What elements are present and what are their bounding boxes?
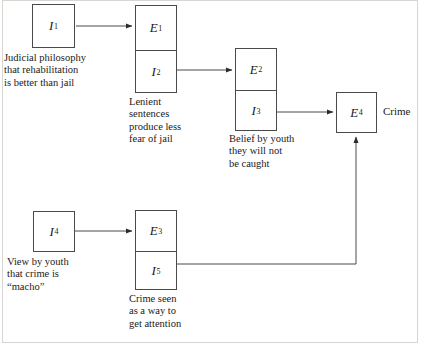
node-i1-cell: I1 <box>33 5 74 47</box>
node-i5-cell: I5 <box>136 251 176 290</box>
caption-i4: View by youth that crime is “macho” <box>7 256 69 293</box>
node-i2-subscript: 2 <box>157 68 161 77</box>
node-i4-label: I <box>49 224 54 240</box>
node-e3-i5[interactable]: E3 I5 <box>135 210 177 290</box>
node-e2-subscript: 2 <box>258 65 262 74</box>
node-e1-label: E <box>150 20 158 36</box>
node-e1-i2[interactable]: E1 I2 <box>135 5 177 93</box>
node-i5-subscript: 5 <box>157 267 161 276</box>
caption-i2: Lenient sentences produce less fear of j… <box>129 96 181 146</box>
caption-i3: Belief by youth they will not be caught <box>229 133 294 170</box>
node-e1-cell: E1 <box>136 6 176 50</box>
node-e3-label: E <box>150 223 158 239</box>
node-e4-cell: E4 <box>337 93 376 132</box>
node-e3-cell: E3 <box>136 211 176 251</box>
node-i2-cell: I2 <box>136 50 176 93</box>
caption-i5: Crime seen as a way to get attention <box>129 293 181 330</box>
node-e4-subscript: 4 <box>359 108 363 117</box>
label-crime: Crime <box>383 105 411 117</box>
node-i4[interactable]: I4 <box>33 211 75 252</box>
caption-i1: Judicial philosophy that rehabilitation … <box>4 52 86 89</box>
node-e4[interactable]: E4 <box>336 92 377 133</box>
node-i3-subscript: 3 <box>257 107 261 116</box>
node-i1-label: I <box>49 18 54 34</box>
node-e4-label: E <box>350 105 358 121</box>
node-e3-subscript: 3 <box>158 227 162 236</box>
node-e2-i3[interactable]: E2 I3 <box>235 48 277 131</box>
node-e2-label: E <box>250 62 258 78</box>
node-i1[interactable]: I1 <box>32 4 75 48</box>
node-i3-label: I <box>251 103 256 119</box>
node-e1-subscript: 1 <box>158 24 162 33</box>
node-i1-subscript: 1 <box>54 22 58 31</box>
causal-chain-diagram: I1 Judicial philosophy that rehabilitati… <box>0 0 422 352</box>
node-i5-label: I <box>151 263 156 279</box>
node-e2-cell: E2 <box>236 49 276 90</box>
node-i4-subscript: 4 <box>55 227 59 236</box>
node-i3-cell: I3 <box>236 90 276 131</box>
node-i4-cell: I4 <box>34 212 74 251</box>
node-i2-label: I <box>151 64 156 80</box>
